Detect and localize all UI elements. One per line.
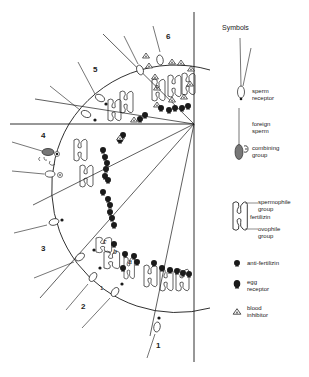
legend-label-blood-inhibitor: blood inhibitor xyxy=(247,305,268,318)
egg-surface-arc xyxy=(52,65,210,312)
fertilization-diagram xyxy=(0,0,309,377)
cell-letter-a: a xyxy=(128,258,132,265)
legend-icons xyxy=(233,38,258,314)
anti-fertilizin-icon xyxy=(234,260,240,267)
fertilizin-icon xyxy=(233,202,247,231)
legend-label-ovophile-group: ovophile group xyxy=(258,226,280,239)
sperm-receptor-icon xyxy=(240,38,241,86)
section-label-6: 6 xyxy=(166,32,170,41)
cell-letter-c: c xyxy=(103,238,107,245)
sector-6-group xyxy=(124,26,195,114)
section-label-4: 4 xyxy=(41,131,45,140)
sector-2-group xyxy=(34,237,140,328)
legend-label-spermophile-group: spermophile group xyxy=(258,199,291,212)
section-label-1: 1 xyxy=(156,341,160,350)
legend-label-fertilizin: fertilizin xyxy=(250,214,270,221)
legend-label-sperm-receptor: sperm receptor xyxy=(252,88,274,101)
section-label-5: 5 xyxy=(93,65,97,74)
legend-title: Symbols xyxy=(222,24,249,31)
legend-label-egg-receptor: egg receptor xyxy=(247,279,269,292)
legend-label-foreign-sperm: foreign sperm xyxy=(252,121,270,134)
section-label-3: 3 xyxy=(41,244,45,253)
cell-letter-b: b xyxy=(113,248,117,255)
blood-inhibitor-icon xyxy=(233,309,241,315)
legend-label-anti-fertilizin: anti-fertilizin xyxy=(247,260,279,267)
sector-1-group xyxy=(144,260,192,358)
small-label: 1 xyxy=(100,285,103,292)
sector-3-group xyxy=(14,189,117,233)
section-label-2: 2 xyxy=(81,302,85,311)
sector-4-group xyxy=(12,139,111,187)
egg-receptor-icon xyxy=(234,280,241,288)
combining-group-icon xyxy=(244,146,248,152)
legend-label-combining-group: combining group xyxy=(252,145,279,158)
